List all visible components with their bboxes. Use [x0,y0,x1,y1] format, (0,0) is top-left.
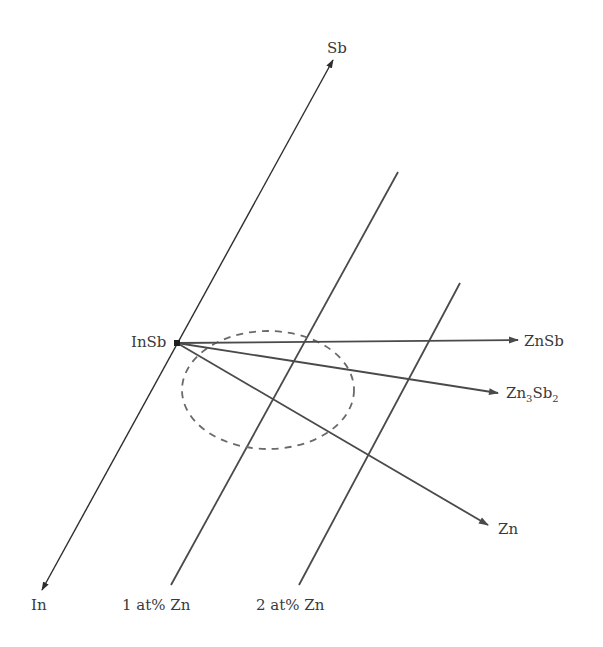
label-in: In [31,596,47,614]
diagram-canvas: Sb InSb ZnSb Zn3Sb2 Zn In 1 at% Zn 2 at%… [0,0,603,647]
ray-to-zn [177,343,488,525]
label-zn: Zn [498,520,518,538]
label-zn3sb2: Zn3Sb2 [506,384,559,404]
in-sb-axis [42,60,333,590]
label-zn3sb2-sb: Sb [532,384,552,402]
label-sb: Sb [327,39,347,57]
label-1-at-pct-zn: 1 at% Zn [122,596,191,614]
label-2-at-pct-zn: 2 at% Zn [256,596,325,614]
insb-point-marker [174,340,180,346]
label-znsb: ZnSb [524,332,564,350]
label-zn3sb2-sub2: 2 [552,393,558,404]
label-insb: InSb [131,333,166,351]
ray-to-zn3sb2 [177,343,498,393]
insb-zn-diagram: Sb InSb ZnSb Zn3Sb2 Zn In 1 at% Zn 2 at%… [0,0,603,647]
label-zn3sb2-zn: Zn [506,384,526,402]
ray-to-znsb [177,340,518,343]
line-1-at-pct-zn [171,172,398,585]
line-2-at-pct-zn [299,283,460,585]
